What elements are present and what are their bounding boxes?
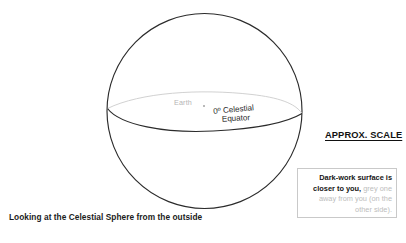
earth-label: Earth xyxy=(174,99,192,107)
earth-marker-dot-icon xyxy=(203,105,205,107)
celestial-equator-label: 0º Celestial Equator xyxy=(213,104,255,126)
scale-note-box: Dark-work surface is closer to you, grey… xyxy=(297,168,397,218)
sphere-outline-circle xyxy=(107,14,302,209)
celestial-equator-back-arc xyxy=(108,92,303,114)
diagram-caption: Looking at the Celestial Sphere from the… xyxy=(9,213,202,222)
celestial-sphere-diagram: Earth 0º Celestial Equator Looking at th… xyxy=(0,0,406,243)
approx-scale-heading: APPROX. SCALE xyxy=(325,130,402,140)
celestial-equator-front-arc xyxy=(108,109,303,132)
